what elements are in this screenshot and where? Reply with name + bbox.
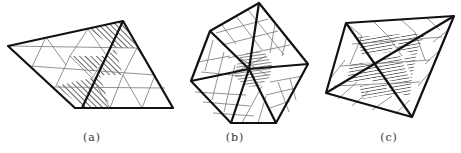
- panel-a-diagram: [8, 21, 173, 108]
- panel-b-spokes: [191, 3, 308, 123]
- caption-b: (b): [226, 131, 245, 144]
- panel-c-diagram: [326, 16, 454, 117]
- caption-a: (a): [83, 131, 101, 144]
- caption-c: (c): [380, 131, 398, 144]
- panel-a-hatched-regions: [56, 21, 137, 108]
- panel-b-diagram: [191, 3, 308, 123]
